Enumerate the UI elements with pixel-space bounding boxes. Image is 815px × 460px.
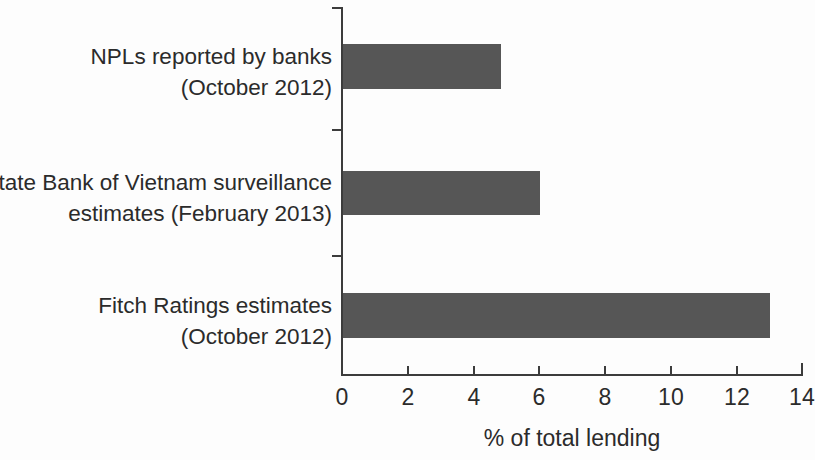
x-axis-tick-label-12: 12 <box>707 384 767 411</box>
x-axis-tick-label-10: 10 <box>641 384 701 411</box>
x-axis-tick-2 <box>407 366 409 375</box>
x-axis-tick-label-14: 14 <box>772 384 815 411</box>
bar-fitch-ratings-estimates <box>343 293 770 338</box>
x-axis-tick-label-0: 0 <box>312 384 372 411</box>
chart-xlabel-hidden: % of total lending <box>0 0 1 1</box>
x-axis-tick-10 <box>670 366 672 375</box>
x-axis-tick-4 <box>473 366 475 375</box>
plot-area: % of total lending NPLs reported by bank… <box>0 0 815 460</box>
y-axis-tick-top <box>332 7 342 9</box>
x-axis-tick-label-8: 8 <box>575 384 635 411</box>
bar-npls-reported-by-banks <box>343 44 501 89</box>
category-label-state-bank-of-vietnam-surveillance: State Bank of Vietnam surveillance estim… <box>0 167 332 229</box>
x-axis-tick-12 <box>736 366 738 375</box>
x-axis-tick-6 <box>538 366 540 375</box>
x-axis-tick-0 <box>341 363 343 375</box>
category-label-fitch-ratings-estimates: Fitch Ratings estimates (October 2012) <box>0 290 332 352</box>
category-label-npls-reported-by-banks: NPLs reported by banks (October 2012) <box>0 41 332 103</box>
x-axis-tick-label-2: 2 <box>378 384 438 411</box>
x-axis-tick-label-6: 6 <box>509 384 569 411</box>
y-axis-tick-2 <box>332 255 342 257</box>
x-axis-line <box>341 374 803 376</box>
x-axis-title: % of total lending <box>341 424 803 452</box>
x-axis-tick-14 <box>801 363 803 375</box>
y-axis-tick-1 <box>332 129 342 131</box>
x-axis-tick-label-4: 4 <box>444 384 504 411</box>
bar-state-bank-of-vietnam-surveillance <box>343 171 540 215</box>
bar-chart-figure: % of total lending NPLs reported by bank… <box>0 0 815 460</box>
x-axis-tick-8 <box>604 366 606 375</box>
